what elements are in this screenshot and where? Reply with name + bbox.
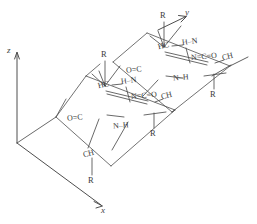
label-r-mid-left: R	[101, 50, 107, 59]
label-r-bottom: R	[88, 176, 94, 185]
label-r-mid-bottom: R	[150, 129, 156, 138]
axis-label-y: y	[185, 8, 189, 17]
label-upper-n-h: N–H	[173, 73, 189, 82]
axis-label-z: z	[7, 46, 11, 55]
label-upper-o-c: O=C	[126, 65, 142, 74]
label-r-right: R	[210, 90, 216, 99]
label-r-top: R	[160, 11, 166, 20]
beta-sheet-drawing	[0, 0, 257, 224]
axis-z	[15, 52, 20, 143]
label-lower-o-c: O=C	[67, 113, 83, 122]
label-lower-n-h: N–H	[113, 121, 129, 130]
axis-label-x: x	[101, 206, 105, 215]
figure-canvas: z x y R R R R R HC H–N N=C=O CH O=C N–H …	[0, 0, 257, 224]
